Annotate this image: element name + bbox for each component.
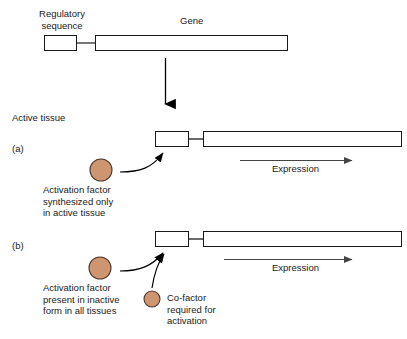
panel-b-construct: [156, 232, 402, 247]
top-regulatory-box: [45, 36, 77, 51]
panel-b-letter: (b): [12, 240, 24, 252]
panel-a-regulatory-box: [156, 132, 189, 147]
regulatory-sequence-label: Regulatory sequence: [32, 8, 92, 31]
panel-a-letter: (a): [12, 143, 24, 155]
panel-a-expression-label: Expression: [272, 163, 319, 175]
panel-b-activation-factor-circle: [89, 257, 111, 279]
panel-b-cofactor-caption: Co-factor required for activation: [167, 292, 239, 327]
panel-b-expression-label: Expression: [272, 262, 319, 274]
panel-a-activation-factor-circle: [90, 159, 112, 181]
panel-b-factor-caption: Activation factor present in inactive fo…: [43, 282, 151, 317]
top-gene-construct: [45, 36, 288, 51]
top-gene-box: [96, 36, 288, 51]
gene-label: Gene: [180, 15, 203, 27]
figure-canvas: Regulatory sequence Gene Active tissue (…: [0, 0, 407, 339]
panel-b-regulatory-box: [156, 232, 189, 247]
panel-a-construct: [156, 132, 402, 147]
panel-a-activation-arrow: [120, 153, 163, 172]
active-tissue-header: Active tissue: [12, 112, 65, 124]
panel-b-gene-box: [204, 232, 402, 247]
panel-b-cofactor-arrow: [152, 254, 164, 288]
panel-a-factor-caption: Activation factor synthesized only in ac…: [43, 184, 148, 219]
panel-a-gene-box: [204, 132, 402, 147]
